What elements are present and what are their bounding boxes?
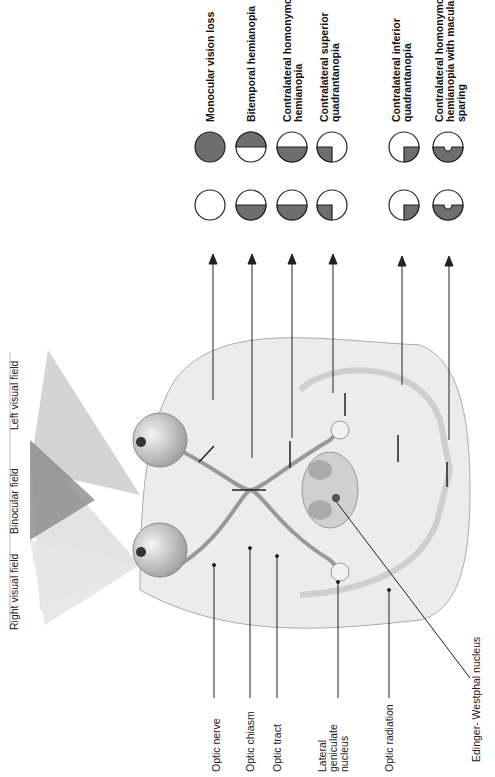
binocular-field-label: Binocular field [8,468,20,534]
optic-radiation-label: Optic radiation [383,704,395,772]
visual-pathway-diagram: Left visual field Binocular field Right … [0,0,495,777]
structure-labels: Optic nerve Optic chiasm Optic tract Lat… [210,637,482,772]
deficit-label: quadrantanopia [401,43,413,122]
visual-field-cones [10,350,140,630]
right-visual-field-label: Right visual field [8,553,20,630]
deficit-label: quadrantanopia [329,43,341,122]
left-visual-field-label: Left visual field [8,360,20,430]
brain-outline [140,338,470,628]
deficit-label: Monocular vision loss [204,12,216,122]
lgn-label: nucleus [338,736,350,772]
visual-field-labels: Left visual field Binocular field Right … [8,360,20,630]
deficit-label: sparing [455,84,467,122]
optic-tract-label: Optic tract [271,724,283,772]
deficit-field-maps [195,132,463,220]
optic-nerve-label: Optic nerve [210,718,222,772]
deficit-label: Bitemporal hemianopia [245,6,257,122]
deficit-labels: Monocular vision loss Bitemporal hemiano… [204,0,467,122]
optic-chiasm-label: Optic chiasm [244,711,256,772]
edinger-westphal-label: Edinger- Westphal nucleus [470,637,482,762]
deficit-label: hemianopia [292,63,304,122]
